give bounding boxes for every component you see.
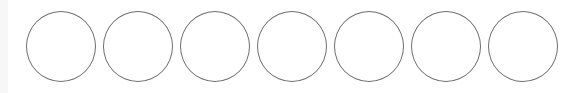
left-edge-bar <box>0 0 8 93</box>
circle-row <box>26 11 558 82</box>
circle-4[interactable] <box>257 11 327 82</box>
circle-5[interactable] <box>334 11 404 82</box>
circle-3[interactable] <box>180 11 250 82</box>
circle-7[interactable] <box>488 11 558 82</box>
circle-6[interactable] <box>411 11 481 82</box>
circle-2[interactable] <box>103 11 173 82</box>
circle-1[interactable] <box>26 11 96 82</box>
